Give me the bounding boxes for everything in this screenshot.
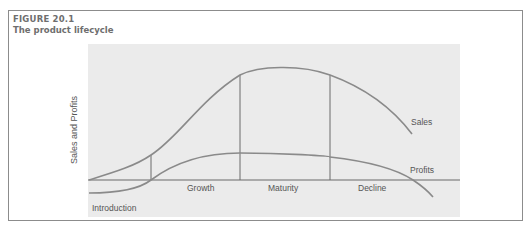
stage-decline-label: Decline <box>358 183 386 193</box>
stage-growth-label: Growth <box>187 183 214 193</box>
sales-label: Sales <box>411 117 432 127</box>
sales-curve <box>89 67 412 180</box>
profits-label: Profits <box>410 165 434 175</box>
stage-introduction-label: Introduction <box>92 203 136 213</box>
stage-maturity-label: Maturity <box>268 183 298 193</box>
lifecycle-chart <box>0 0 532 234</box>
